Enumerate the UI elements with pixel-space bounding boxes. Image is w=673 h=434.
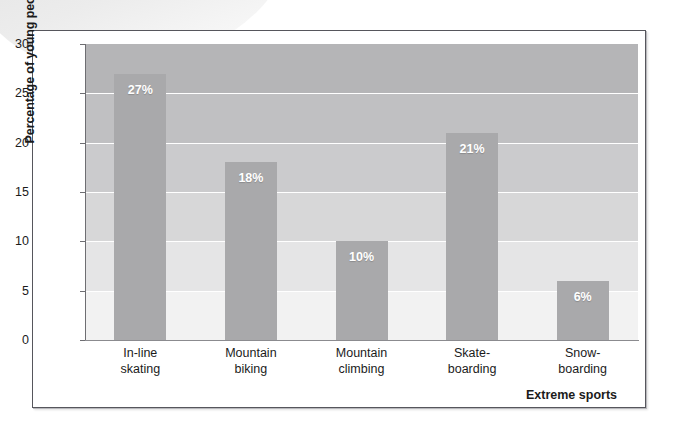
- y-tick-label: 25: [0, 86, 29, 100]
- y-tick-label: 20: [0, 136, 29, 150]
- bar-value-label: 27%: [114, 83, 166, 97]
- y-tick-mark: [80, 192, 85, 193]
- x-axis-title: Extreme sports: [33, 388, 617, 402]
- x-category-label: Mountainbiking: [196, 345, 307, 377]
- y-tick-label: 5: [0, 284, 29, 298]
- bar-value-label: 6%: [557, 290, 609, 304]
- x-category-label-line: climbing: [306, 361, 417, 377]
- x-category-label: Skate-boarding: [417, 345, 528, 377]
- gridline: [85, 143, 638, 144]
- chart-frame: Percentage of young people 051015202530 …: [32, 30, 646, 408]
- y-tick-mark: [80, 44, 85, 45]
- x-category-label-line: boarding: [417, 361, 528, 377]
- y-axis-line: [85, 44, 86, 341]
- y-tick-mark: [80, 241, 85, 242]
- bar: 21%: [446, 133, 498, 340]
- bar: 6%: [557, 281, 609, 340]
- y-tick-label: 15: [0, 185, 29, 199]
- x-category-label: In-lineskating: [85, 345, 196, 377]
- x-category-label-line: boarding: [527, 361, 638, 377]
- gridline: [85, 93, 638, 94]
- bar-value-label: 21%: [446, 142, 498, 156]
- x-category-label-line: Snow-: [527, 345, 638, 361]
- x-category-label-line: biking: [196, 361, 307, 377]
- y-tick-label: 0: [0, 333, 29, 347]
- background-band: [85, 93, 638, 142]
- background-band: [85, 44, 638, 93]
- bar-value-label: 10%: [336, 250, 388, 264]
- x-category-label-line: skating: [85, 361, 196, 377]
- y-tick-mark: [80, 291, 85, 292]
- background-band: [85, 143, 638, 192]
- bar: 18%: [225, 162, 277, 340]
- x-category-label-line: Skate-: [417, 345, 528, 361]
- background-band: [85, 192, 638, 241]
- bar: 27%: [114, 74, 166, 340]
- bar: 10%: [336, 241, 388, 340]
- gridline: [85, 192, 638, 193]
- y-tick-mark: [80, 93, 85, 94]
- y-tick-mark: [80, 340, 85, 341]
- x-category-label-line: Mountain: [306, 345, 417, 361]
- x-axis-line: [85, 340, 639, 341]
- x-category-label-line: In-line: [85, 345, 196, 361]
- x-category-label: Mountainclimbing: [306, 345, 417, 377]
- x-category-label-line: Mountain: [196, 345, 307, 361]
- x-category-label: Snow-boarding: [527, 345, 638, 377]
- y-tick-label: 10: [0, 234, 29, 248]
- bar-value-label: 18%: [225, 171, 277, 185]
- y-tick-mark: [80, 143, 85, 144]
- y-tick-label: 30: [0, 37, 29, 51]
